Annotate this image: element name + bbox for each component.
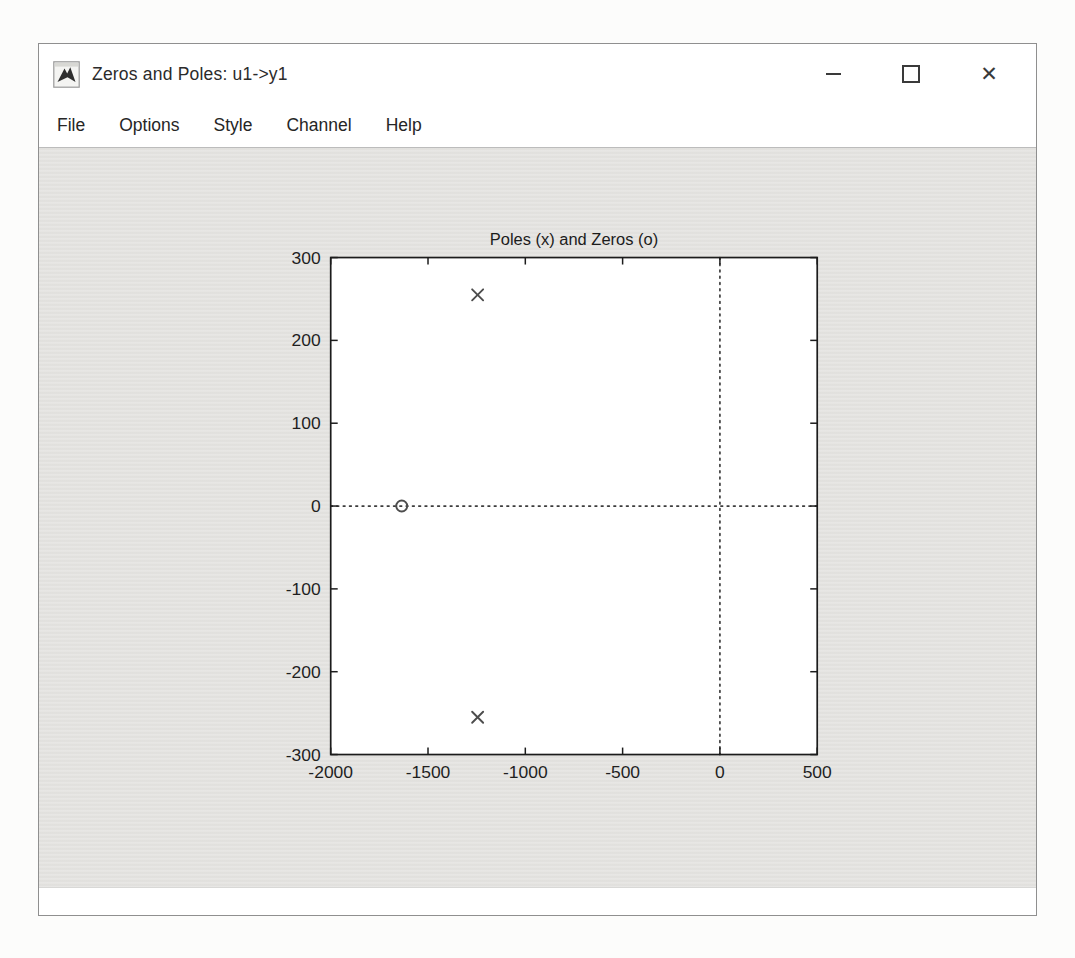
title-bar[interactable]: Zeros and Poles: u1->y1 ✕ (39, 44, 1036, 104)
y-tick-label: -100 (286, 579, 321, 599)
close-icon: ✕ (980, 64, 998, 85)
y-tick-label: 0 (311, 496, 321, 516)
menu-options[interactable]: Options (117, 112, 181, 139)
figure-area: -2000-1500-1000-5000500-300-200-10001002… (39, 148, 1036, 887)
zeros-and-poles-window: Zeros and Poles: u1->y1 ✕ File Options S… (38, 43, 1037, 916)
menu-bar: File Options Style Channel Help (39, 104, 1036, 148)
window-title: Zeros and Poles: u1->y1 (92, 64, 288, 85)
x-tick-label: 0 (715, 762, 725, 782)
minimize-icon (826, 73, 841, 75)
status-bar (39, 887, 1036, 915)
matlab-logo-icon (53, 61, 80, 88)
menu-style[interactable]: Style (212, 112, 255, 139)
x-tick-label: -1500 (406, 762, 451, 782)
x-tick-label: -500 (605, 762, 640, 782)
x-tick-label: 500 (803, 762, 832, 782)
maximize-button[interactable] (872, 44, 950, 104)
pole-zero-plot-canvas[interactable]: -2000-1500-1000-5000500-300-200-10001002… (39, 148, 1036, 887)
maximize-icon (902, 65, 920, 83)
x-tick-label: -2000 (308, 762, 353, 782)
menu-help[interactable]: Help (384, 112, 424, 139)
plot-title: Poles (x) and Zeros (o) (490, 230, 658, 248)
y-tick-label: -300 (286, 745, 321, 765)
window-controls: ✕ (794, 44, 1028, 104)
x-tick-label: -1000 (503, 762, 548, 782)
minimize-button[interactable] (794, 44, 872, 104)
y-tick-label: 200 (292, 330, 321, 350)
close-button[interactable]: ✕ (950, 44, 1028, 104)
menu-channel[interactable]: Channel (284, 112, 353, 139)
y-tick-label: -200 (286, 662, 321, 682)
plot-background (331, 258, 818, 755)
y-tick-label: 100 (292, 413, 321, 433)
y-tick-label: 300 (292, 248, 321, 268)
menu-file[interactable]: File (55, 112, 87, 139)
